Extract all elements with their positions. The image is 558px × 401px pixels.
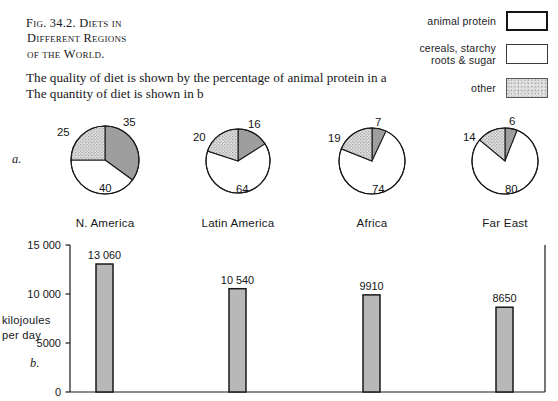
bar-chart-panel <box>0 232 558 401</box>
pie-chart-panel: 3540251664207741968014 <box>0 0 558 205</box>
y-axis-tick-label: 5000 <box>0 337 61 349</box>
bar-chart-canvas <box>0 232 558 401</box>
bar-value-label: 9910 <box>359 280 383 292</box>
y-axis-tick-label: 10 000 <box>0 288 61 300</box>
bar-value-label: 10 540 <box>221 274 254 286</box>
pie-value-label-other: 14 <box>463 131 476 143</box>
bar-value-label: 8650 <box>492 292 516 304</box>
region-label-n-america: N. America <box>76 216 135 229</box>
bar-latin-america <box>229 289 246 392</box>
bar-far-east <box>496 307 513 392</box>
region-label-far-east: Far East <box>482 216 527 229</box>
region-label-latin-america: Latin America <box>202 216 275 229</box>
region-label-africa: Africa <box>357 216 388 229</box>
y-axis-tick-label: 15 000 <box>0 239 61 251</box>
bar-value-label: 13 060 <box>88 249 121 261</box>
pie-value-label-animal-protein: 6 <box>509 115 515 127</box>
y-axis-tick-label: 0 <box>0 386 61 398</box>
bar-africa <box>363 295 380 392</box>
y-axis-title-line-1: kilojoules <box>2 314 51 326</box>
bar-n-america <box>96 264 113 392</box>
pie-value-label-cereals: 80 <box>505 183 518 195</box>
pie-far-east <box>0 0 558 205</box>
